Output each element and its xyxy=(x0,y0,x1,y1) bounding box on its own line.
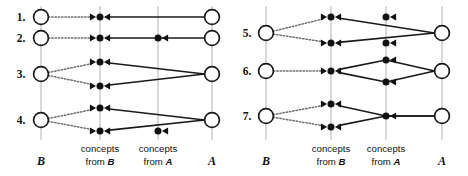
ontology-b-entity xyxy=(34,67,49,82)
mapping-row: 2. xyxy=(17,31,220,46)
ontology-a-entity xyxy=(435,109,450,124)
arrowhead-right xyxy=(321,13,327,20)
mapping-row: 3. xyxy=(17,58,220,89)
concept-node-b xyxy=(328,14,335,21)
column-caption-A: A xyxy=(437,154,446,168)
ontology-b-entity xyxy=(34,31,49,46)
arrowhead-left xyxy=(390,112,396,119)
concept-node-a xyxy=(383,14,390,21)
concept-node-a xyxy=(155,128,162,135)
solid-edge xyxy=(338,106,386,116)
diagram-panel-left: Bconceptsfrom Bconceptsfrom AA1.2.3.4. xyxy=(0,0,234,176)
arrowhead-right xyxy=(321,123,327,130)
mapping-row: 1. xyxy=(17,10,220,25)
arrowhead-left xyxy=(104,82,110,89)
arrowhead-left xyxy=(390,78,396,85)
arrowhead-right xyxy=(90,127,96,134)
concept-node-a xyxy=(383,113,390,120)
concept-node-a xyxy=(383,40,390,47)
solid-edge xyxy=(107,74,204,85)
concept-node-b xyxy=(97,35,104,42)
dotted-edge xyxy=(48,63,93,72)
column-caption-conceptsB: concepts xyxy=(312,143,351,154)
mapping-row: 4. xyxy=(17,104,220,134)
column-caption-sub-conceptsA: from A xyxy=(144,156,173,167)
concept-node-a xyxy=(383,79,390,86)
arrowhead-left xyxy=(335,39,341,46)
concept-node-b xyxy=(97,105,104,112)
arrowhead-left xyxy=(162,34,168,41)
concept-node-a xyxy=(155,35,162,42)
concept-node-b xyxy=(97,83,104,90)
concept-node-b xyxy=(328,124,335,131)
arrowhead-left xyxy=(390,13,396,20)
column-caption-conceptsA: concepts xyxy=(139,143,178,154)
diagram-panel-right: Bconceptsfrom Bconceptsfrom AA5.6.7. xyxy=(234,0,468,176)
concept-node-b xyxy=(328,68,335,75)
arrowhead-right xyxy=(321,39,327,46)
dotted-edge xyxy=(273,34,324,42)
arrowhead-left xyxy=(104,104,110,111)
concept-node-a xyxy=(383,57,390,64)
arrowhead-right xyxy=(90,82,96,89)
ontology-b-entity xyxy=(34,10,49,25)
ontology-b-entity xyxy=(259,64,274,79)
arrowhead-right xyxy=(90,34,96,41)
row-number-label: 6. xyxy=(243,65,252,77)
row-number-label: 1. xyxy=(17,11,26,23)
dotted-edge xyxy=(273,105,324,114)
solid-edge xyxy=(338,116,386,126)
arrowhead-left xyxy=(390,56,396,63)
solid-edge xyxy=(107,63,204,74)
arrowhead-left xyxy=(104,127,110,134)
arrowhead-right xyxy=(90,58,96,65)
column-caption-sub-conceptsA: from A xyxy=(372,156,401,167)
ontology-a-entity xyxy=(435,26,450,41)
column-caption-conceptsB: concepts xyxy=(81,143,120,154)
row-number-label: 7. xyxy=(243,110,252,122)
ontology-a-entity xyxy=(205,67,220,82)
dotted-edge xyxy=(48,121,93,129)
ontology-b-entity xyxy=(259,26,274,41)
column-caption-A: A xyxy=(207,154,216,168)
arrowhead-right xyxy=(321,100,327,107)
dotted-edge xyxy=(273,19,324,32)
solid-edge xyxy=(338,60,386,70)
mapping-row: 7. xyxy=(243,100,450,130)
concept-node-b xyxy=(97,14,104,21)
concept-node-b xyxy=(328,101,335,108)
dotted-edge xyxy=(273,117,324,126)
solid-edge xyxy=(338,72,386,82)
arrowhead-left xyxy=(335,67,341,74)
dotted-edge xyxy=(48,109,93,118)
arrowhead-left xyxy=(390,39,396,46)
column-caption-sub-conceptsB: from B xyxy=(317,156,346,167)
arrowhead-left xyxy=(335,123,341,130)
figure-canvas: Bconceptsfrom Bconceptsfrom AA1.2.3.4. B… xyxy=(0,0,468,176)
arrowhead-left xyxy=(104,13,110,20)
arrowhead-left xyxy=(335,13,341,20)
arrowhead-left xyxy=(162,127,168,134)
arrowhead-right xyxy=(90,13,96,20)
column-caption-sub-conceptsB: from B xyxy=(86,156,115,167)
concept-node-b xyxy=(97,59,104,66)
row-number-label: 5. xyxy=(243,27,252,39)
ontology-b-entity xyxy=(259,109,274,124)
ontology-a-entity xyxy=(435,64,450,79)
arrowhead-right xyxy=(321,67,327,74)
row-number-label: 2. xyxy=(17,32,26,44)
concept-node-b xyxy=(328,40,335,47)
solid-edge xyxy=(107,109,204,120)
arrowhead-left xyxy=(335,100,341,107)
arrowhead-left xyxy=(104,58,110,65)
concept-node-b xyxy=(97,128,104,135)
column-caption-B: B xyxy=(261,154,270,168)
ontology-a-entity xyxy=(205,31,220,46)
column-caption-B: B xyxy=(36,154,45,168)
arrowhead-left xyxy=(104,34,110,41)
mapping-row: 5. xyxy=(243,13,450,46)
ontology-b-entity xyxy=(34,113,49,128)
dotted-edge xyxy=(48,75,93,84)
ontology-a-entity xyxy=(205,10,220,25)
arrowhead-right xyxy=(90,104,96,111)
